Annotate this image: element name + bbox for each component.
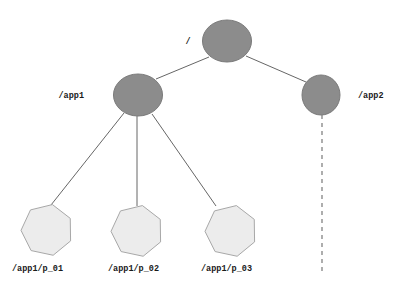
- branch-node-group: [114, 20, 341, 116]
- graph-canvas: / /app1 /app2 /app1/p_01 /app1/p_02 /app…: [0, 0, 401, 289]
- tree-diagram: / /app1 /app2 /app1/p_01 /app1/p_02 /app…: [0, 0, 401, 289]
- node-p01-heptagon[interactable]: [21, 205, 71, 256]
- edge-root-to-app2: [246, 56, 306, 82]
- label-root: /: [185, 37, 190, 47]
- node-p02-heptagon[interactable]: [111, 206, 161, 257]
- node-root-ellipse[interactable]: [203, 20, 252, 62]
- node-app1-ellipse[interactable]: [114, 74, 163, 116]
- node-app2-ellipse[interactable]: [302, 75, 340, 115]
- node-p03-heptagon[interactable]: [205, 206, 255, 257]
- label-p03: /app1/p_03: [201, 264, 252, 274]
- label-app1: /app1: [58, 91, 84, 101]
- label-p02: /app1/p_02: [108, 264, 159, 274]
- edge-app1-to-p01: [51, 113, 124, 205]
- label-app2: /app2: [358, 91, 384, 101]
- edge-group: [51, 56, 322, 272]
- leaf-node-group: [21, 205, 255, 257]
- edge-app1-to-p03: [152, 114, 216, 206]
- edge-root-to-app1: [156, 57, 209, 79]
- label-p01: /app1/p_01: [12, 264, 63, 274]
